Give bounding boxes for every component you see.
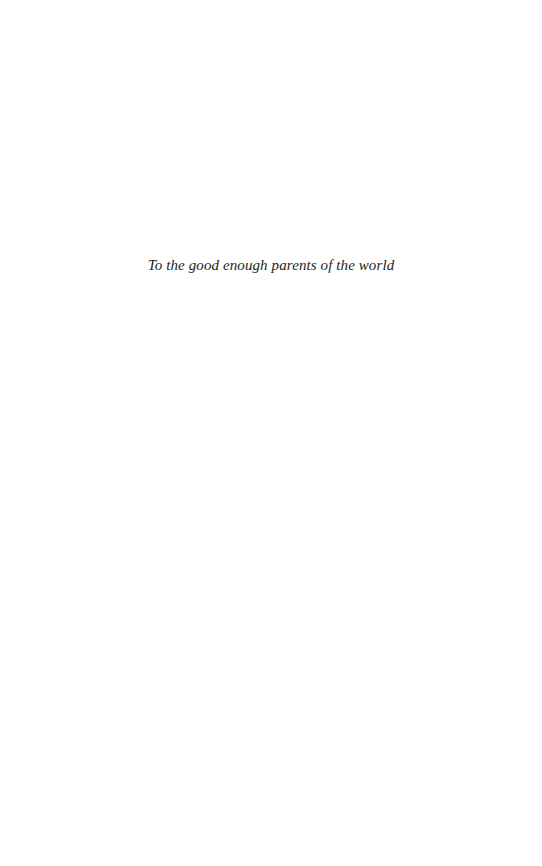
book-page: To the good enough parents of the world — [0, 0, 542, 866]
dedication-text: To the good enough parents of the world — [0, 255, 542, 275]
